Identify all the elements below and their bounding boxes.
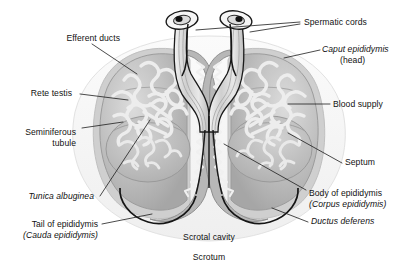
label-ductus-deferens: Ductus deferens [311, 216, 374, 227]
label-septum: Septum [345, 157, 375, 168]
label-body-of-epididymis-line1: Body of epididymis [309, 188, 382, 199]
label-rete-testis: Rete testis [8, 88, 72, 99]
label-tunica-albuginea: Tunica albuginea [2, 191, 94, 202]
label-seminiferous-tubule-line1: Seminiferous [2, 127, 76, 138]
label-tail-of-epididymis-line2: (Cauda epididymis) [2, 230, 98, 241]
label-seminiferous-tubule-line2: tubule [2, 138, 76, 149]
anatomy-diagram-scrotum: Efferent ducts Rete testis Seminiferous … [0, 0, 419, 270]
label-scrotum: Scrotum [149, 252, 269, 263]
label-caput-epididymis-line2: (head) [340, 55, 365, 66]
label-scrotal-cavity: Scrotal cavity [149, 232, 269, 243]
label-tail-of-epididymis-line1: Tail of epididymis [2, 219, 98, 230]
label-body-of-epididymis-line2: (Corpus epididymis) [309, 199, 386, 210]
label-blood-supply: Blood supply [333, 99, 383, 110]
label-spermatic-cords: Spermatic cords [304, 17, 367, 28]
label-caput-epididymis-line1: Caput epididymis [322, 44, 389, 55]
label-efferent-ducts: Efferent ducts [8, 33, 120, 44]
